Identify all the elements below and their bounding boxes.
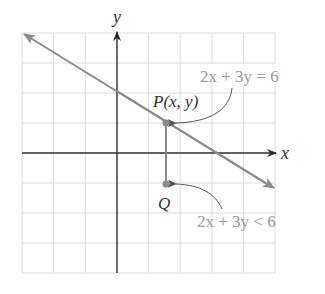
x-axis-label: x — [280, 143, 289, 163]
point-p-label: P(x, y) — [152, 92, 199, 111]
point-q-label: Q — [158, 194, 170, 213]
equation-label: 2x + 3y = 6 — [200, 67, 279, 86]
pointer-arrow-to-q — [176, 184, 222, 209]
y-axis-label: y — [111, 7, 121, 27]
point-p-dot — [163, 120, 170, 127]
inequality-graph: y x P(x, y) Q 2x + 3y = 6 2x + 3y < 6 — [0, 0, 325, 294]
point-q-dot — [163, 181, 170, 188]
inequality-label: 2x + 3y < 6 — [197, 212, 276, 231]
graph-canvas: y x P(x, y) Q 2x + 3y = 6 2x + 3y < 6 — [0, 0, 325, 294]
